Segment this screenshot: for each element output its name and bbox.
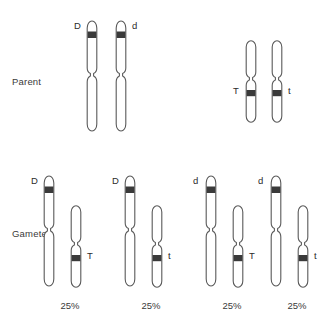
parent-row-label: Parent — [12, 76, 41, 87]
genetics-diagram-canvas: Parent D d T t Gametes — [0, 0, 330, 322]
gamete-1-chromosome-long — [41, 175, 57, 291]
parent-chromosome-T — [243, 40, 259, 124]
gamete-4-chromosome-long — [268, 175, 284, 291]
parent-allele-label-T: T — [233, 86, 239, 96]
gamete-4-allele-label-long: d — [258, 176, 263, 186]
gamete-1-chromosome-short — [68, 205, 84, 289]
parent-allele-label-D: D — [74, 21, 81, 31]
gamete-2-chromosome-short — [149, 205, 165, 289]
gamete-3-percent: 25% — [202, 300, 262, 311]
parent-chromosome-d — [113, 20, 129, 136]
gamete-2-percent: 25% — [121, 300, 181, 311]
gamete-3-chromosome-long — [203, 175, 219, 291]
gamete-4-chromosome-short — [295, 205, 311, 289]
gamete-2-allele-label-short: t — [168, 251, 171, 261]
gamete-1-percent: 25% — [40, 300, 100, 311]
gamete-2-allele-label-long: D — [112, 176, 119, 186]
gamete-1-allele-label-long: D — [31, 176, 38, 186]
parent-chromosome-t — [269, 40, 285, 124]
gamete-3-allele-label-long: d — [193, 176, 198, 186]
parent-chromosome-D — [84, 20, 100, 136]
gamete-4-percent: 25% — [267, 300, 327, 311]
gamete-4-allele-label-short: t — [314, 251, 317, 261]
gamete-2-chromosome-long — [122, 175, 138, 291]
parent-allele-label-t: t — [288, 86, 291, 96]
gamete-1-allele-label-short: T — [87, 251, 93, 261]
gamete-3-chromosome-short — [230, 205, 246, 289]
gamete-3-allele-label-short: T — [249, 251, 255, 261]
parent-allele-label-d: d — [132, 21, 137, 31]
